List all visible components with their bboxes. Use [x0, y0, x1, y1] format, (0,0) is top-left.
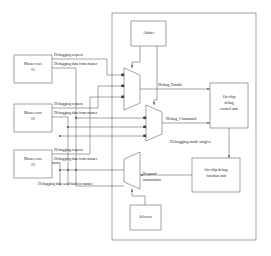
arbiter-label: Arbiter	[131, 31, 166, 35]
respond-information-label-line1: Respond	[143, 172, 156, 176]
debug-function-unit-label-line2: function unit	[192, 174, 240, 178]
master-core-2-label-line1: Master core	[14, 111, 52, 115]
respond-mux-shape	[124, 152, 140, 189]
debug-control-unit-label-line2: debug	[210, 101, 248, 105]
selector-label: Selector	[130, 215, 161, 219]
debug-command-label: Debug_Command	[166, 117, 196, 122]
debug-enable-label: Debug_Enable	[158, 83, 182, 88]
debug-control-unit-label-line1: On-chip	[210, 95, 248, 99]
master-core-2-request-label: Debugging request	[54, 102, 83, 106]
wire-selector-to-mux3	[132, 189, 145, 205]
debug-architecture-diagram: Master core #1 Master core #2 Master cor…	[0, 0, 271, 256]
debug-function-unit-label-line1: On-chip debug	[192, 168, 240, 172]
master-core-1-label-line1: Master core	[14, 62, 52, 66]
enable-mux-shape	[124, 68, 140, 110]
wire-arbiter-to-mux2	[154, 46, 157, 105]
command-mux-shape	[146, 105, 162, 141]
master-core-3-request-label: Debugging request	[54, 148, 83, 152]
master-core-2-label-line2: #2	[14, 117, 52, 121]
master-core-3-label-line2: #3	[14, 163, 52, 167]
master-core-2-data-label: Debugging data from master	[54, 111, 97, 115]
debug-mode-signals-label: Debugging mode singles	[170, 140, 211, 145]
master-core-3-label-line1: Master core	[14, 157, 52, 161]
master-core-1-data-label: Debugging data from master	[54, 62, 97, 66]
master-core-3-data-label: Debugging data from master	[54, 157, 97, 161]
wire-arbiter-to-mux1	[132, 46, 140, 68]
master-core-1-request-label: Debugging request	[54, 53, 83, 57]
master-core-1-label-line2: #1	[14, 68, 52, 72]
debug-control-unit-label-line3: control unit	[210, 107, 248, 111]
respond-information-label-line2: information	[143, 178, 161, 182]
data-send-back-label: Debugging data send back to master	[38, 182, 93, 186]
